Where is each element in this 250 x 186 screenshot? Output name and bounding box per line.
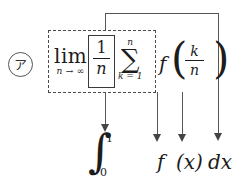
item-label-text: ア xyxy=(14,58,27,71)
fraction-one-over-n: 1 n xyxy=(92,40,111,77)
summation-operator: n ∑ k = 1 xyxy=(118,38,142,81)
fraction-k-over-n: k n xyxy=(184,44,205,77)
bottom-function-name: f xyxy=(157,150,164,174)
integral-upper-limit: 1 xyxy=(106,132,113,145)
summation-lower-limit: k = 1 xyxy=(118,72,142,81)
fraction-numerator: 1 xyxy=(92,40,111,56)
arrowhead-to-x xyxy=(178,134,186,142)
bottom-variable: (x) xyxy=(176,150,203,174)
top-function-name: f xyxy=(159,52,166,76)
arrow-line-f-to-f xyxy=(157,92,158,136)
top-paren-right: ) xyxy=(213,38,229,80)
connector-top-left-vertical xyxy=(105,13,106,31)
bottom-differential: dx xyxy=(208,150,232,174)
integral-lower-limit: 0 xyxy=(100,166,107,179)
arrow-line-kn-to-x xyxy=(182,92,183,136)
item-label-circle: ア xyxy=(8,52,33,77)
argument-denominator: n xyxy=(184,63,205,77)
connector-top-horizontal xyxy=(105,13,219,14)
fraction-denominator: n xyxy=(92,61,111,77)
arrow-line-limit-to-integral xyxy=(105,93,106,126)
sigma-icon: ∑ xyxy=(118,47,142,72)
arrowhead-to-dx xyxy=(214,133,222,141)
argument-fraction-bar xyxy=(185,60,204,61)
math-diagram-canvas: ア lim n → ∞ 1 n n ∑ k = 1 f ( k n ) ∫ 1 … xyxy=(0,0,250,186)
limit-operator: lim n → ∞ xyxy=(54,46,87,76)
arrowhead-to-f xyxy=(153,134,161,142)
limit-lim-text: lim xyxy=(54,46,87,66)
limit-subscript: n → ∞ xyxy=(54,67,87,76)
argument-numerator: k xyxy=(184,44,205,58)
